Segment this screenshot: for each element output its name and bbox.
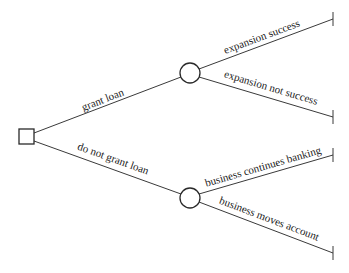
chance-node-grant-loan <box>180 63 200 83</box>
label-business-continues-banking: business continues banking <box>203 143 322 188</box>
edge-grant-loan <box>34 77 181 133</box>
label-do-not-grant-loan: do not grant loan <box>76 140 151 177</box>
chance-node-do-not-grant-loan <box>180 188 200 208</box>
label-grant-loan: grant loan <box>80 86 126 113</box>
decision-tree-canvas: grant loan do not grant loan expansion s… <box>0 0 349 273</box>
edge-expansion-success <box>199 19 333 69</box>
label-business-moves-account: business moves account <box>218 194 321 243</box>
label-expansion-not-success: expansion not success <box>223 68 320 107</box>
label-expansion-success: expansion success <box>222 17 301 56</box>
decision-node-square <box>19 129 34 144</box>
